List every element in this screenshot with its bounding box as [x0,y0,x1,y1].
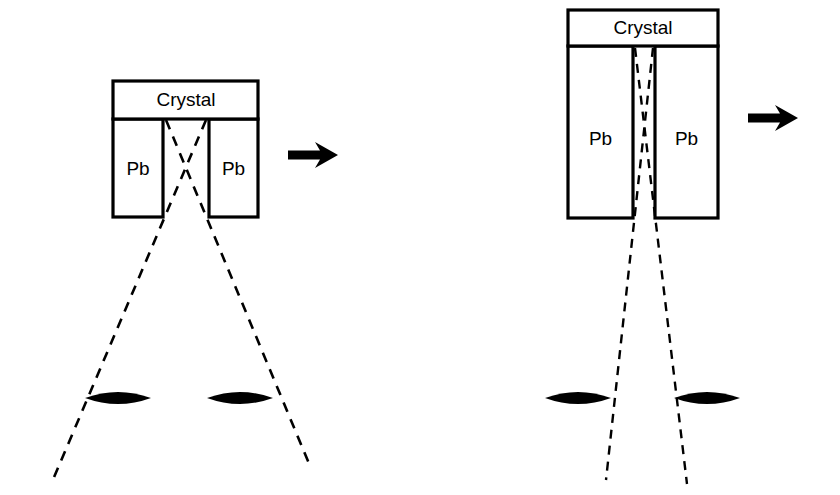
lead-shield-left-label: Pb [589,128,612,149]
left-panel-arrow [288,142,338,168]
right-panel-sources [545,392,740,404]
arrow-right-icon [748,105,798,131]
right-panel: Pb Pb Crystal [545,10,798,484]
crystal-label: Crystal [156,89,215,110]
right-panel-crystal: Crystal [568,10,718,46]
crystal-label: Crystal [613,17,672,38]
collimator-diagram: Pb Pb Crystal [0,0,840,495]
left-panel-shields: Pb Pb [113,119,258,217]
radiation-source-icon-right [674,392,740,404]
right-panel-arrow [748,105,798,131]
figure-container: Pb Pb Crystal [0,0,840,495]
lead-shield-right-label: Pb [222,158,245,179]
left-panel-sources [85,392,273,404]
radiation-source-icon-right [207,392,273,404]
lead-shield-left-label: Pb [126,158,149,179]
radiation-source-icon-left [85,392,151,404]
left-panel-crystal: Crystal [113,81,258,119]
left-panel: Pb Pb Crystal [52,81,338,482]
arrow-right-icon [288,142,338,168]
lead-shield-right-label: Pb [675,128,698,149]
left-panel-rays [52,120,310,482]
radiation-source-icon-left [545,392,611,404]
